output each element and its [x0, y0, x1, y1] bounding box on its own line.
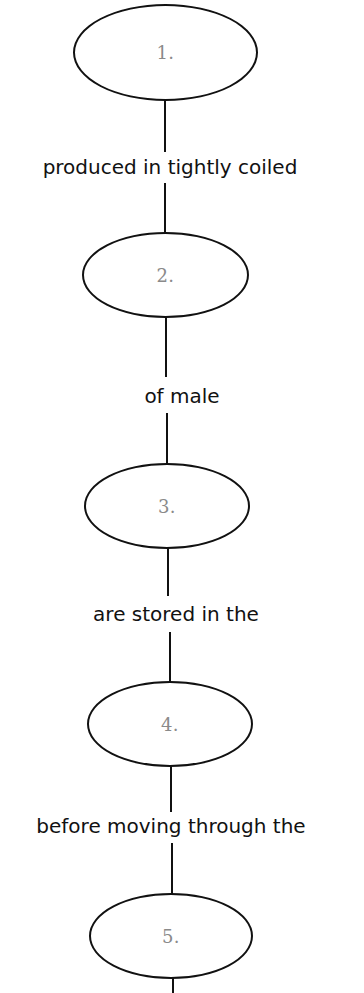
node-2-label: 2.: [156, 265, 174, 286]
connector-line: [167, 548, 169, 596]
connector-line: [170, 766, 172, 812]
edge-2-label: of male: [0, 384, 364, 408]
connector-line: [166, 413, 168, 463]
connector-line: [165, 317, 167, 377]
connector-line: [172, 978, 174, 993]
node-4-ellipse: 4.: [87, 681, 253, 767]
node-3-label: 3.: [158, 496, 176, 517]
edge-4-label: before moving through the: [0, 814, 353, 838]
connector-line: [164, 100, 166, 152]
node-1-ellipse: 1.: [73, 4, 258, 101]
node-1-label: 1.: [156, 42, 174, 63]
connector-line: [164, 183, 166, 233]
node-5-label: 5.: [162, 926, 180, 947]
edge-1-label: produced in tightly coiled: [0, 155, 352, 179]
concept-map-diagram: 1. produced in tightly coiled 2. of male…: [0, 0, 364, 993]
node-2-ellipse: 2.: [82, 232, 249, 318]
node-5-ellipse: 5.: [89, 893, 253, 979]
node-3-ellipse: 3.: [84, 463, 250, 549]
connector-line: [169, 632, 171, 681]
connector-line: [171, 843, 173, 894]
node-4-label: 4.: [161, 714, 179, 735]
edge-3-label: are stored in the: [0, 602, 358, 626]
